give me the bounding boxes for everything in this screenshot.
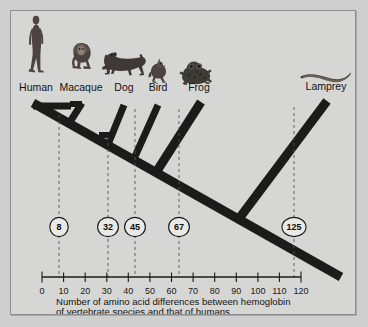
axis-tick-label-70: 70 [188, 286, 198, 296]
axis-tick-label-120: 120 [293, 286, 308, 296]
node-badge-8-value: 8 [56, 222, 61, 232]
taxon-label-macaque: Macaque [59, 81, 102, 93]
cladogram-figure: Human Macaque Dog Bird Frog Lamprey [0, 0, 368, 327]
axis-tick-label-50: 50 [145, 286, 155, 296]
axis-tick-label-100: 100 [250, 286, 265, 296]
axis-tick-label-20: 20 [80, 286, 90, 296]
branch-lamprey [238, 101, 327, 220]
branch-bird [133, 105, 158, 161]
taxon-label-frog: Frog [188, 81, 210, 93]
cladogram-svg: Human Macaque Dog Bird Frog Lamprey [11, 11, 355, 314]
node-badge-67: 67 [169, 217, 190, 236]
axis-tick-label-80: 80 [210, 286, 220, 296]
node-badge-32-value: 32 [103, 222, 113, 232]
axis-tick-label-0: 0 [39, 286, 44, 296]
cladogram-branches [33, 101, 341, 277]
node-badge-45: 45 [125, 217, 146, 236]
human-figure-icon [29, 16, 44, 73]
dog-icon [102, 52, 146, 75]
node-badge-125-value: 125 [286, 222, 301, 232]
caption-line-2: of vertebrate species and that of humans [56, 306, 230, 314]
node-badge-125: 125 [282, 217, 306, 236]
node-badge-32: 32 [98, 217, 119, 236]
chicken-bird-icon [148, 59, 166, 83]
branch-frog [155, 102, 201, 174]
axis-tick-label-90: 90 [231, 286, 241, 296]
taxon-label-lamprey: Lamprey [306, 80, 348, 92]
axis-tick-label-40: 40 [123, 286, 133, 296]
taxon-label-human: Human [19, 81, 53, 93]
taxon-label-dog: Dog [114, 81, 133, 93]
figure-frame: Human Macaque Dog Bird Frog Lamprey [10, 10, 356, 315]
node-badge-45-value: 45 [130, 222, 140, 232]
axis-tick-label-10: 10 [59, 286, 69, 296]
branch-dog [107, 105, 124, 147]
taxon-label-bird: Bird [149, 81, 168, 93]
node-badge-67-value: 67 [174, 222, 184, 232]
node-badge-8: 8 [50, 217, 68, 236]
axis-tick-label-60: 60 [166, 286, 176, 296]
macaque-monkey-icon [72, 43, 91, 69]
axis-tick-label-110: 110 [272, 286, 286, 296]
axis-tick-label-30: 30 [102, 286, 112, 296]
x-axis: 0 10 20 30 40 50 60 70 80 90 100 110 120 [39, 272, 308, 297]
